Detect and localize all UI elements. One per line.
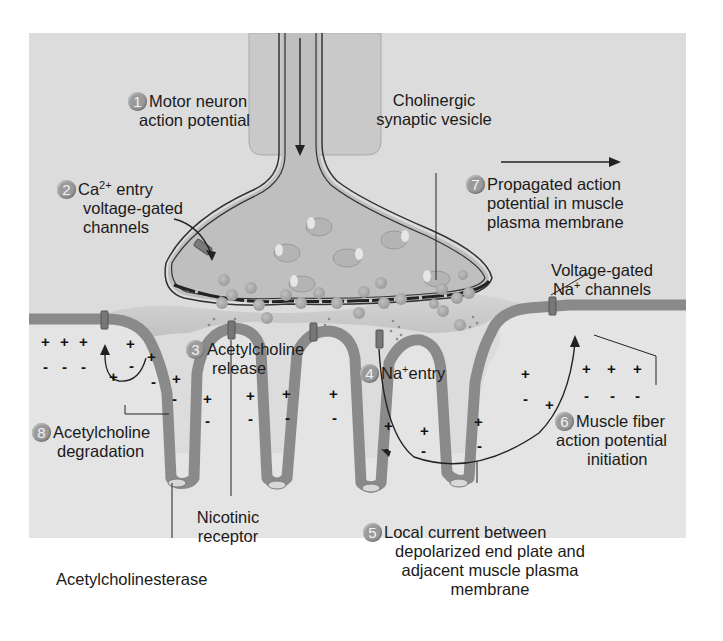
charge-plus: + [203, 391, 212, 406]
step-6-label: 6Muscle fiber action potential initiatio… [555, 412, 667, 469]
charge-minus: - [62, 359, 67, 374]
charge-minus: - [384, 441, 389, 456]
step-8-label: 8Acetylcholine degradation [32, 423, 150, 461]
charge-minus: - [205, 413, 210, 428]
charge-plus: + [109, 369, 118, 384]
step-badge: 4 [360, 364, 379, 383]
step-badge: 1 [128, 92, 147, 111]
charge-plus: + [633, 361, 642, 376]
charge-plus: + [384, 418, 393, 433]
charge-plus: + [474, 414, 483, 429]
charge-plus: + [60, 334, 69, 349]
charge-minus: - [477, 438, 482, 453]
charge-minus: - [248, 411, 253, 426]
step-badge: 5 [363, 523, 382, 542]
step-1-label: 1Motor neuron action potential [128, 92, 250, 130]
charge-plus: + [607, 361, 616, 376]
step-badge: 6 [555, 412, 574, 431]
charge-plus: + [79, 334, 88, 349]
charge-plus: + [147, 349, 156, 364]
step-badge: 7 [466, 175, 485, 194]
charge-minus: - [332, 410, 337, 425]
step-5-label: 5Local current between [363, 523, 546, 542]
acetylcholinesterase-label: Acetylcholinesterase [56, 570, 207, 589]
charge-minus: - [635, 388, 640, 403]
step-7-label: 7Propagated action potential in muscle p… [466, 175, 624, 232]
step-3-label: 3Acetylcholine release [186, 340, 304, 378]
step-badge: 2 [57, 180, 76, 199]
charge-plus: + [41, 334, 50, 349]
charge-minus: - [43, 359, 48, 374]
charge-plus: + [172, 371, 181, 386]
step-5-label-cont: depolarized end plate andadjacent muscle… [370, 542, 610, 599]
charge-plus: + [521, 366, 530, 381]
charge-minus: - [610, 388, 615, 403]
charge-minus: - [81, 359, 86, 374]
charge-plus: + [545, 397, 554, 412]
step-2-label: 2Ca2+ entry voltage-gated channels [57, 180, 183, 237]
charge-minus: - [584, 388, 589, 403]
charge-plus: + [420, 423, 429, 438]
charge-minus: - [523, 391, 528, 406]
charge-plus: + [126, 336, 135, 351]
step-badge: 3 [186, 340, 205, 359]
vesicle-label: Cholinergicsynaptic vesicle [366, 91, 502, 129]
charge-minus: - [172, 391, 177, 406]
charge-minus: - [421, 443, 426, 458]
charge-minus: - [129, 358, 134, 373]
charge-minus: - [151, 374, 156, 389]
step-4-label: 4Na+entry [360, 364, 445, 383]
charge-plus: + [582, 361, 591, 376]
step-badge: 8 [32, 423, 51, 442]
charge-plus: + [329, 386, 338, 401]
charge-plus: + [282, 386, 291, 401]
nicotinic-receptor-label: Nicotinicreceptor [183, 508, 273, 546]
na-channels-label: Voltage-gatedNa+ channels [540, 261, 664, 299]
charge-plus: + [246, 388, 255, 403]
charge-minus: - [285, 410, 290, 425]
